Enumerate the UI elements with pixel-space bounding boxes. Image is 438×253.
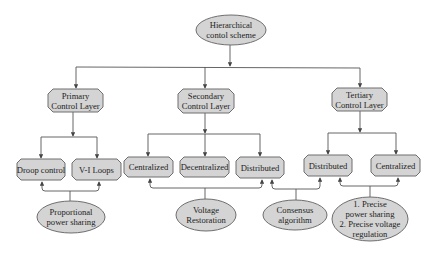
proportional-line2: power sharing <box>47 217 97 227</box>
ter-distributed-node: Distributed <box>304 155 352 176</box>
voltage-line1: Voltage <box>193 205 219 215</box>
sec-distributed-node: Distributed <box>236 157 284 178</box>
sec-decentralized-node: Decentralized <box>180 157 229 177</box>
sec-centralized-label: Centralized <box>129 162 169 172</box>
consensus-line1: Consensus <box>277 205 314 215</box>
vi-loops-label: V-I Loops <box>79 165 114 175</box>
edge-precise-to-ter-centralized <box>370 178 398 186</box>
tertiary-layer-line1: Tertiary <box>346 90 374 100</box>
secondary-layer-line1: Secondary <box>188 91 225 101</box>
root-label-line2: contol scheme <box>206 30 256 40</box>
consensus-line2: algorithm <box>278 215 312 225</box>
precise-line4: regulation <box>353 229 389 239</box>
ter-centralized-node: Centralized <box>371 155 420 176</box>
droop-control-node: Droop control <box>17 159 66 180</box>
consensus-algorithm-node: Consensus algorithm <box>263 200 327 230</box>
ter-centralized-label: Centralized <box>376 161 416 171</box>
edge-voltage-to-centralized <box>150 179 205 188</box>
secondary-layer-node: Secondary Control Layer <box>178 89 234 113</box>
voltage-line2: Restoration <box>186 215 226 225</box>
edge-voltage-to-distributed <box>205 180 262 188</box>
edge-consensus-to-sec-distributed <box>272 180 296 189</box>
sec-centralized-node: Centralized <box>124 157 173 177</box>
edge-consensus-to-ter-distributed <box>296 178 320 189</box>
precise-line1: 1. Precise <box>353 199 387 209</box>
edge-precise-to-ter-distributed <box>340 178 370 186</box>
edge-proportional-to-droop <box>42 182 70 191</box>
root-node: Hierarchical contol scheme <box>196 15 266 45</box>
sec-decentralized-label: Decentralized <box>181 162 229 172</box>
secondary-layer-line2: Control Layer <box>182 101 231 111</box>
voltage-restoration-node: Voltage Restoration <box>176 199 236 231</box>
sec-distributed-label: Distributed <box>241 163 280 173</box>
edge-proportional-to-vi <box>70 182 99 191</box>
precise-regulation-node: 1. Precise power sharing 2. Precise volt… <box>332 197 408 241</box>
precise-line3: 2. Precise voltage <box>340 219 401 229</box>
precise-line2: power sharing <box>346 209 396 219</box>
ter-distributed-label: Distributed <box>309 161 348 171</box>
tertiary-layer-line2: Control Layer <box>335 100 384 110</box>
tertiary-layer-node: Tertiary Control Layer <box>332 88 387 111</box>
primary-layer-line1: Primary <box>62 91 90 101</box>
edge-root-bus <box>76 67 360 68</box>
droop-control-label: Droop control <box>17 165 66 175</box>
proportional-power-sharing-node: Proportional power sharing <box>37 201 105 233</box>
root-label-line1: Hierarchical <box>210 20 253 30</box>
proportional-line1: Proportional <box>50 207 94 217</box>
primary-layer-node: Primary Control Layer <box>48 89 103 112</box>
vi-loops-node: V-I Loops <box>72 159 121 180</box>
primary-layer-line2: Control Layer <box>51 101 100 111</box>
hierarchical-control-diagram: Hierarchical contol scheme Primary Contr… <box>0 0 438 253</box>
